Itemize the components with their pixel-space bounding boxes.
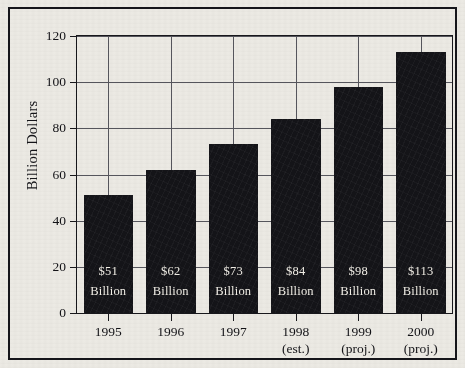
x-axis-tick-label: 1998 (est.) (261, 324, 331, 358)
bar-1997[interactable]: $73 Billion (209, 144, 259, 313)
x-axis-tick (296, 313, 297, 321)
bar-value-label: $113 Billion (396, 262, 446, 301)
y-axis-tick: 120 (70, 36, 77, 37)
x-axis-tick-year: 1999 (345, 324, 372, 339)
x-axis-tick-label: 1999 (proj.) (323, 324, 393, 358)
bar-value-unit: Billion (84, 282, 134, 301)
bar-1996[interactable]: $62 Billion (146, 170, 196, 313)
y-axis-tick-label: 20 (53, 259, 67, 275)
y-axis-tick-label: 80 (53, 120, 67, 136)
x-axis-tick-sublabel: (proj.) (386, 341, 456, 358)
y-axis-tick: 40 (70, 221, 77, 222)
bar-value-amount: $73 (209, 262, 259, 281)
x-axis-tick-label: 2000 (proj.) (386, 324, 456, 358)
y-axis-tick-label: 100 (46, 74, 66, 90)
bar-value-label: $98 Billion (334, 262, 384, 301)
y-axis-tick-label: 0 (59, 305, 66, 321)
bar-value-label: $84 Billion (271, 262, 321, 301)
x-axis-tick-label: 1996 (136, 324, 206, 341)
bar-value-amount: $62 (146, 262, 196, 281)
x-axis-tick-year: 1995 (95, 324, 122, 339)
bar-value-label: $73 Billion (209, 262, 259, 301)
x-axis-tick-year: 1996 (157, 324, 184, 339)
x-axis-tick-year: 1997 (220, 324, 247, 339)
x-axis-tick-label: 1995 (73, 324, 143, 341)
bar-1999[interactable]: $98 Billion (334, 87, 384, 313)
x-axis-tick-year: 1998 (282, 324, 309, 339)
x-axis-tick (421, 313, 422, 321)
y-axis-tick: 60 (70, 175, 77, 176)
x-axis-tick-sublabel: (est.) (261, 341, 331, 358)
y-axis-tick: 0 (70, 313, 77, 314)
bar-value-amount: $51 (84, 262, 134, 281)
bar-value-unit: Billion (334, 282, 384, 301)
plot-area: 120 100 80 60 40 20 0 (76, 35, 453, 314)
gridline-horizontal (77, 36, 452, 37)
x-axis-tick-label: 1997 (198, 324, 268, 341)
bar-1995[interactable]: $51 Billion (84, 195, 134, 313)
x-axis-tick (171, 313, 172, 321)
x-axis-tick (358, 313, 359, 321)
bar-value-amount: $113 (396, 262, 446, 281)
x-axis-tick-sublabel: (proj.) (323, 341, 393, 358)
bar-value-unit: Billion (271, 282, 321, 301)
bar-value-unit: Billion (146, 282, 196, 301)
bar-value-amount: $98 (334, 262, 384, 281)
bar-value-unit: Billion (396, 282, 446, 301)
y-axis-tick: 80 (70, 128, 77, 129)
bar-value-unit: Billion (209, 282, 259, 301)
x-axis-tick-year: 2000 (407, 324, 434, 339)
figure-root: Billion Dollars 120 100 80 60 40 (0, 0, 465, 368)
y-axis-tick-label: 120 (46, 28, 66, 44)
bar-2000[interactable]: $113 Billion (396, 52, 446, 313)
y-axis-tick-label: 60 (53, 167, 67, 183)
figure-border-frame: Billion Dollars 120 100 80 60 40 (8, 7, 457, 360)
bar-value-label: $51 Billion (84, 262, 134, 301)
y-axis-tick: 20 (70, 267, 77, 268)
x-axis-tick (233, 313, 234, 321)
bar-1998[interactable]: $84 Billion (271, 119, 321, 313)
bar-value-label: $62 Billion (146, 262, 196, 301)
y-axis-tick-label: 40 (53, 213, 67, 229)
y-axis-tick: 100 (70, 82, 77, 83)
bar-value-amount: $84 (271, 262, 321, 281)
x-axis-tick (108, 313, 109, 321)
y-axis-title: Billion Dollars (24, 46, 41, 246)
